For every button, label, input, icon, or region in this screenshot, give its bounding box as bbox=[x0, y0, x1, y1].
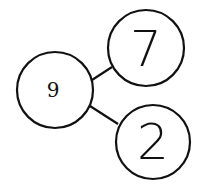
part-circle-top: 7 bbox=[108, 10, 184, 86]
connector-whole-to-part-top bbox=[92, 67, 112, 80]
whole-circle: 9 bbox=[17, 52, 93, 128]
connector-whole-to-part-bottom bbox=[90, 106, 118, 124]
part-value-top: 7 bbox=[130, 20, 162, 78]
part-circle-bottom: 2 bbox=[116, 105, 190, 179]
whole-value: 9 bbox=[47, 78, 60, 102]
part-value-bottom: 2 bbox=[137, 113, 169, 171]
number-bond-diagram: 9 7 2 bbox=[0, 0, 207, 190]
